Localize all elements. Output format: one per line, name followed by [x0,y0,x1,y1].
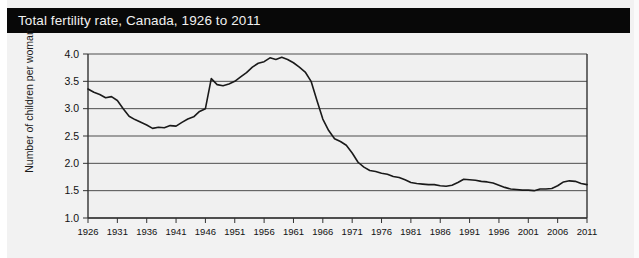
x-tick-label: 1926 [77,226,98,237]
plot-wrapper: Number of children per woman 1.01.52.02.… [0,33,639,238]
x-tick-label: 1976 [371,226,392,237]
x-tick-label: 2011 [577,226,597,237]
x-tick-label: 1951 [224,226,245,237]
line-chart: 1.01.52.02.53.03.54.01926193119361941194… [0,33,639,238]
y-tick-label: 1.5 [64,184,79,196]
figure-container: Total fertility rate, Canada, 1926 to 20… [0,0,639,258]
x-tick-label: 1991 [459,226,480,237]
x-tick-label: 1941 [165,226,186,237]
y-tick-label: 2.0 [64,157,79,169]
x-tick-label: 1961 [283,226,304,237]
y-tick-label: 1.0 [64,212,79,224]
x-tick-label: 1946 [195,226,216,237]
x-tick-label: 1966 [312,226,333,237]
x-tick-label: 1996 [488,226,509,237]
x-tick-label: 1956 [254,226,275,237]
y-tick-label: 3.0 [64,102,79,114]
y-tick-label: 3.5 [64,75,79,87]
y-tick-label: 2.5 [64,130,79,142]
y-tick-label: 4.0 [64,48,79,60]
page-title: Total fertility rate, Canada, 1926 to 20… [7,13,261,28]
x-tick-label: 2001 [518,226,539,237]
x-tick-label: 2006 [547,226,568,237]
figure-caption [10,250,630,258]
x-tick-label: 1936 [136,226,157,237]
x-tick-label: 1981 [400,226,421,237]
chart-title-bar: Total fertility rate, Canada, 1926 to 20… [7,8,630,33]
x-tick-label: 1986 [430,226,451,237]
x-tick-label: 1931 [107,226,128,237]
x-tick-label: 1971 [342,226,363,237]
